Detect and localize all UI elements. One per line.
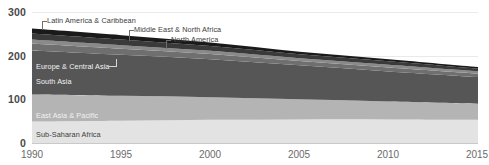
leader-line-latin-america-h bbox=[42, 21, 47, 22]
leader-line-middle-east-h bbox=[129, 30, 134, 31]
y-axis-label-200: 200 bbox=[0, 51, 26, 61]
callout-north-america: North America bbox=[171, 36, 218, 44]
y-axis-label-300: 300 bbox=[0, 7, 26, 17]
y-axis-label-100: 100 bbox=[0, 94, 26, 104]
x-axis-label-2005: 2005 bbox=[279, 149, 319, 160]
leader-line-north-america-h bbox=[166, 40, 171, 41]
band-label-europe-central-asia: Europe & Central Asia bbox=[36, 63, 109, 71]
leader-line-latin-america-v bbox=[42, 21, 43, 30]
callout-middle-east-north-africa: Middle East & North Africa bbox=[134, 26, 221, 34]
band-label-sub-saharan-africa: Sub-Saharan Africa bbox=[36, 131, 101, 139]
leader-line-north-america-v bbox=[166, 40, 167, 49]
band-label-east-asia-pacific: East Asia & Pacific bbox=[36, 112, 98, 120]
band-label-south-asia: South Asia bbox=[36, 78, 72, 86]
x-axis-label-1995: 1995 bbox=[101, 149, 141, 160]
leader-line-middle-east-v bbox=[129, 30, 130, 41]
leader-line-europe-central-asia-v bbox=[116, 59, 117, 67]
x-axis-label-2000: 2000 bbox=[190, 149, 230, 160]
x-axis-label-2015: 2015 bbox=[457, 149, 489, 160]
callout-latin-america-caribbean: Latin America & Caribbean bbox=[47, 17, 136, 25]
y-axis-label-0: 0 bbox=[0, 138, 26, 148]
x-axis-label-2010: 2010 bbox=[368, 149, 408, 160]
stacked-area-chart: 300 200 100 0 Europe & Central Asia Sout… bbox=[0, 0, 489, 165]
x-axis-label-1990: 1990 bbox=[12, 149, 52, 160]
